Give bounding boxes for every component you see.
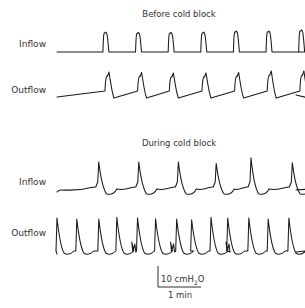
scale-label-time: 1 min	[168, 290, 192, 300]
trace-outflow-before	[57, 71, 305, 98]
panel-title-during: During cold block	[142, 138, 216, 148]
pressure-traces-figure: Before cold block During cold block Infl…	[0, 0, 305, 308]
row-label-inflow-before: Inflow	[19, 39, 46, 49]
scale-label-pressure-main: 10 cmH	[161, 274, 194, 284]
row-label-outflow-during: Outflow	[11, 228, 46, 238]
trace-inflow-before	[57, 30, 305, 52]
scale-label-pressure-suffix: O	[198, 274, 205, 284]
panel-title-before: Before cold block	[142, 9, 215, 19]
row-label-inflow-during: Inflow	[19, 177, 46, 187]
scale-label-pressure: 10 cmH2O	[161, 274, 205, 286]
trace-inflow-during	[57, 158, 305, 194]
row-label-outflow-before: Outflow	[11, 85, 46, 95]
trace-outflow-during	[56, 217, 305, 254]
